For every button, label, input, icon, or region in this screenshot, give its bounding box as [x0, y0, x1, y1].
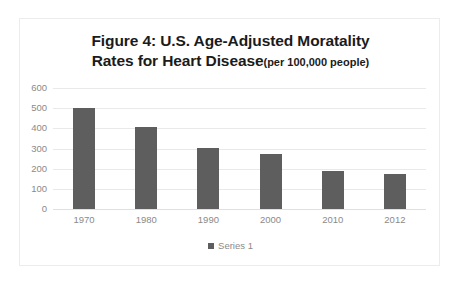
y-axis-tick-label: 400	[31, 124, 47, 134]
y-axis-tick-label: 100	[31, 184, 47, 194]
chart-title-line-2: Rates for Heart Disease	[92, 52, 264, 69]
y-axis-tick-label: 600	[31, 83, 47, 93]
bar[interactable]	[197, 148, 219, 210]
chart-title-line-1: Figure 4: U.S. Age-Adjusted Moratality	[20, 31, 441, 51]
y-axis-tick-label: 300	[31, 144, 47, 154]
chart-legend: Series 1	[20, 240, 441, 252]
x-axis-tick-label: 1980	[115, 213, 177, 227]
x-axis-tick-label: 2010	[302, 213, 364, 227]
bar-slot	[177, 88, 239, 209]
y-axis-tick-label: 0	[42, 204, 47, 214]
figure-container: Figure 4: U.S. Age-Adjusted Moratality R…	[19, 18, 440, 266]
bar[interactable]	[73, 108, 95, 209]
legend-label: Series 1	[218, 240, 253, 252]
legend-swatch-icon	[208, 243, 214, 249]
bar-slot	[240, 88, 302, 209]
bar[interactable]	[322, 171, 344, 209]
bar[interactable]	[384, 174, 406, 209]
plot-area: 0100200300400500600	[53, 88, 426, 209]
bar-slot	[115, 88, 177, 209]
bar-slot	[302, 88, 364, 209]
x-axis-tick-label: 1970	[53, 213, 115, 227]
chart-title-line-2-wrap: Rates for Heart Disease(per 100,000 peop…	[20, 51, 441, 72]
x-axis-tick-label: 2000	[240, 213, 302, 227]
gridline: 0	[53, 209, 426, 210]
x-axis-tick-label: 2012	[364, 213, 426, 227]
bar-slot	[364, 88, 426, 209]
bar-slot	[53, 88, 115, 209]
chart-title: Figure 4: U.S. Age-Adjusted Moratality R…	[20, 31, 441, 72]
y-axis-tick-label: 500	[31, 103, 47, 113]
y-axis-tick-label: 200	[31, 164, 47, 174]
bars-layer	[53, 88, 426, 209]
chart-title-suffix: (per 100,000 people)	[263, 56, 369, 68]
bar[interactable]	[260, 154, 282, 209]
x-axis-tick-label: 1990	[177, 213, 239, 227]
legend-entry[interactable]: Series 1	[208, 240, 253, 252]
bar[interactable]	[135, 127, 157, 209]
x-axis-labels: 197019801990200020102012	[53, 213, 426, 229]
